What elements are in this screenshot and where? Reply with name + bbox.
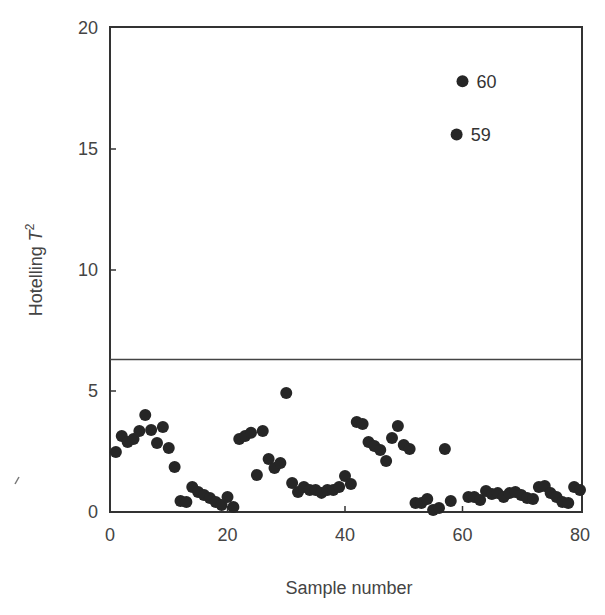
hotelling-t2-chart: 020406080 05101520 5960 Sample number Ho… [0, 0, 605, 615]
data-point [574, 484, 586, 496]
y-axis-title: Hotelling T2 [23, 223, 46, 316]
data-point [139, 409, 151, 421]
data-point [380, 455, 392, 467]
data-point [163, 442, 175, 454]
axes-frame [110, 27, 582, 512]
y-axis-title-sup: 2 [23, 223, 37, 230]
data-point [404, 443, 416, 455]
data-point [421, 493, 433, 505]
data-point [157, 421, 169, 433]
data-point [280, 387, 292, 399]
data-point [245, 427, 257, 439]
data-point [527, 493, 539, 505]
y-tick-label: 5 [88, 381, 98, 401]
data-point [345, 478, 357, 490]
data-point [357, 418, 369, 430]
stray-scan-mark [15, 477, 19, 484]
data-point [169, 461, 181, 473]
x-tick-label: 60 [452, 525, 472, 545]
data-point [110, 446, 122, 458]
point-label: 59 [471, 125, 491, 145]
data-point [433, 502, 445, 514]
data-point [227, 501, 239, 513]
y-tick-label: 20 [78, 18, 98, 38]
data-point [374, 444, 386, 456]
x-axis-title: Sample number [285, 578, 412, 598]
point-annotations: 5960 [471, 72, 497, 145]
data-point [562, 497, 574, 509]
plot-area: 020406080 05101520 5960 [78, 18, 590, 545]
data-point [180, 496, 192, 508]
data-point [151, 437, 163, 449]
x-tick-label: 0 [105, 525, 115, 545]
y-tick-label: 0 [88, 502, 98, 522]
data-point [133, 425, 145, 437]
x-tick-label: 40 [335, 525, 355, 545]
data-point [451, 128, 463, 140]
data-point [445, 495, 457, 507]
data-point [386, 432, 398, 444]
y-tick-label: 15 [78, 139, 98, 159]
data-point [392, 420, 404, 432]
data-point [274, 457, 286, 469]
data-point [457, 75, 469, 87]
y-axis-title-base: Hotelling [26, 241, 46, 316]
data-point [145, 424, 157, 436]
x-tick-label: 80 [570, 525, 590, 545]
data-point [439, 443, 451, 455]
y-tick-label: 10 [78, 260, 98, 280]
data-point [333, 481, 345, 493]
data-point [251, 469, 263, 481]
point-label: 60 [477, 72, 497, 92]
data-point [257, 425, 269, 437]
x-tick-label: 20 [217, 525, 237, 545]
data-points [110, 75, 586, 516]
